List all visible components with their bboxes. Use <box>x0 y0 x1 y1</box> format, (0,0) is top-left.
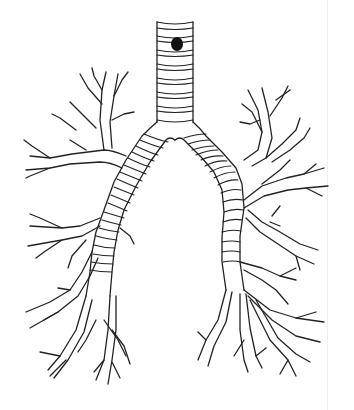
bronchial-tree-diagram <box>0 0 354 410</box>
trachea <box>157 22 193 122</box>
trachea-marker <box>171 37 183 51</box>
right-lower-branches <box>198 262 324 376</box>
right-main-bronchus <box>175 122 244 290</box>
left-upper-branches <box>24 68 134 178</box>
left-main-bronchus <box>86 122 175 296</box>
right-middle-branches <box>244 160 328 270</box>
right-upper-branches <box>240 86 310 166</box>
left-lower-branches <box>26 214 134 384</box>
